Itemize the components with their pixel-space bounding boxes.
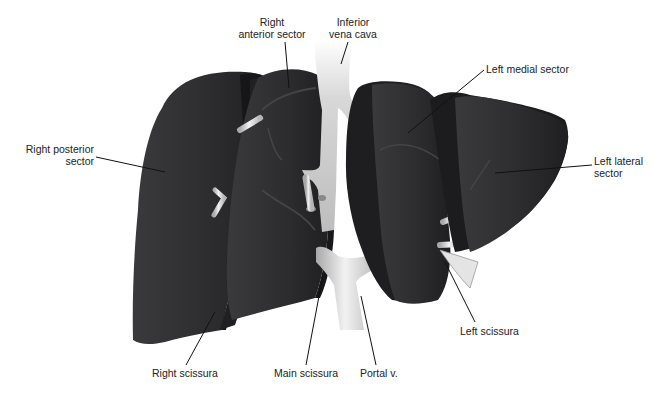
label-portal-vein: Portal v. bbox=[360, 367, 398, 379]
label-line: Left medial sector bbox=[486, 63, 569, 75]
label-line: Right scissura bbox=[152, 367, 218, 379]
label-inferior-vena-cava: Inferior vena cava bbox=[318, 16, 388, 40]
label-right-anterior-sector: Right anterior sector bbox=[222, 16, 322, 40]
label-line: Right bbox=[222, 16, 322, 28]
label-line: sector bbox=[594, 167, 643, 179]
label-left-medial-sector: Left medial sector bbox=[486, 63, 569, 75]
label-right-posterior-sector: Right posterior sector bbox=[10, 143, 94, 167]
label-line: sector bbox=[10, 155, 94, 167]
label-line: Main scissura bbox=[274, 367, 338, 379]
label-line: Right posterior bbox=[10, 143, 94, 155]
label-left-scissura: Left scissura bbox=[460, 325, 519, 337]
label-left-lateral-sector: Left lateral sector bbox=[594, 155, 643, 179]
label-line: Inferior bbox=[318, 16, 388, 28]
label-main-scissura: Main scissura bbox=[274, 367, 338, 379]
left-lateral-sector-shape bbox=[430, 92, 568, 252]
liver-sectors-diagram bbox=[0, 0, 667, 398]
label-line: anterior sector bbox=[222, 28, 322, 40]
label-line: Left lateral bbox=[594, 155, 643, 167]
label-line: Left scissura bbox=[460, 325, 519, 337]
label-line: vena cava bbox=[318, 28, 388, 40]
label-line: Portal v. bbox=[360, 367, 398, 379]
label-right-scissura: Right scissura bbox=[152, 367, 218, 379]
